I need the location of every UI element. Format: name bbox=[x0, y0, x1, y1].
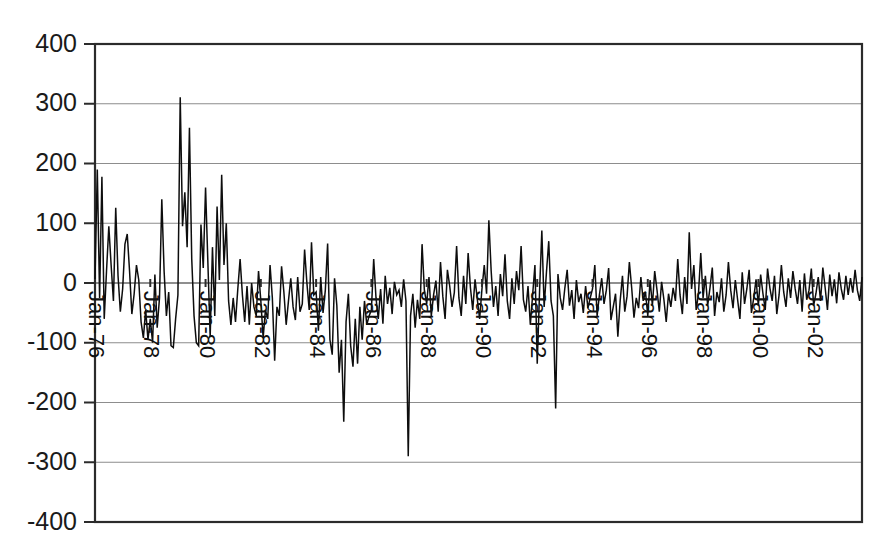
y-tick-label: -300 bbox=[27, 447, 77, 475]
y-tick-label: -100 bbox=[27, 327, 77, 355]
y-tick-label: -200 bbox=[27, 387, 77, 415]
y-tick-label: 200 bbox=[35, 148, 77, 176]
time-series-chart: 4003002001000-100-200-300-400 Jan-76Jan-… bbox=[0, 0, 895, 557]
x-tick-label: Jan-02 bbox=[803, 291, 828, 358]
y-tick-label: 0 bbox=[63, 268, 77, 296]
x-tick-label: Jan-96 bbox=[637, 291, 662, 358]
y-tick-label: -400 bbox=[27, 507, 77, 535]
y-tick-label: 300 bbox=[35, 88, 77, 116]
x-tick-label: Jan-90 bbox=[471, 291, 496, 358]
x-tick-label: Jan-92 bbox=[526, 291, 551, 358]
y-tick-label: 100 bbox=[35, 208, 77, 236]
x-tick-label: Jan-88 bbox=[416, 291, 441, 358]
x-tick-label: Jan-00 bbox=[748, 291, 773, 358]
x-tick-label: Jan-86 bbox=[361, 291, 386, 358]
x-tick-label: Jan-76 bbox=[84, 291, 109, 358]
x-tick-label: Jan-94 bbox=[582, 291, 607, 358]
x-tick-label: Jan-84 bbox=[305, 291, 330, 358]
chart-container: 4003002001000-100-200-300-400 Jan-76Jan-… bbox=[0, 0, 895, 557]
y-tick-label: 400 bbox=[35, 29, 77, 57]
x-tick-label: Jan-82 bbox=[250, 291, 275, 358]
x-tick-label: Jan-78 bbox=[139, 291, 164, 358]
x-tick-label: Jan-80 bbox=[195, 291, 220, 358]
x-tick-label: Jan-98 bbox=[692, 291, 717, 358]
